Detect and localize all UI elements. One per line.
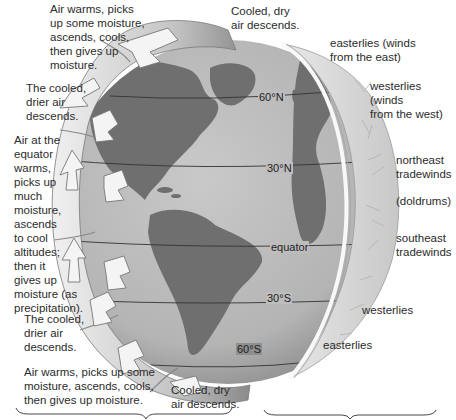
label-north-descend-top: Cooled, dry air descends. xyxy=(231,4,299,32)
label-equator-rise: Air at the equator warms, picks up much … xyxy=(14,133,83,315)
latitude-30n: 30°N xyxy=(266,162,293,174)
label-ne-trades: northeast tradewinds xyxy=(396,153,452,181)
label-north-30-descend: The cooled, drier air descends. xyxy=(26,81,86,123)
latitude-60s: 60°S xyxy=(236,343,262,355)
label-easterlies-north: easterlies (winds from the east) xyxy=(330,36,416,64)
label-polar-north-rise: Air warms, picks up some moisture, ascen… xyxy=(50,2,145,72)
label-doldrums: (doldrums) xyxy=(396,194,451,208)
latitude-30s: 30°S xyxy=(266,292,292,304)
label-se-trades: southeast tradewinds xyxy=(396,231,452,259)
label-westerlies-south: westerlies xyxy=(362,303,413,317)
label-south-descend-bottom: Cooled, dry air descends. xyxy=(171,383,239,411)
latitude-equator: equator xyxy=(270,241,309,253)
label-westerlies-north: westerlies (winds from the west) xyxy=(370,79,456,121)
label-easterlies-south: easterlies xyxy=(323,338,372,352)
label-polar-south-rise: Air warms, picks up some moisture, ascen… xyxy=(24,365,155,407)
label-south-30-descend: The cooled, drier air descends. xyxy=(24,312,84,354)
latitude-60n: 60°N xyxy=(258,91,285,103)
